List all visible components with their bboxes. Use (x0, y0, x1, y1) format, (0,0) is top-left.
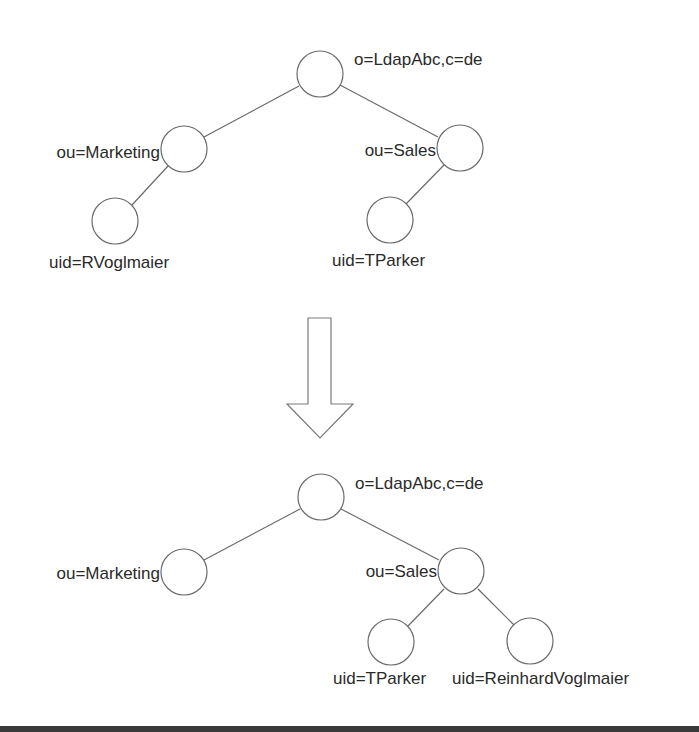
edge-root-sales (341, 509, 439, 560)
ldap-tree-diagram: o=LdapAbc,c=de ou=Marketing ou=Sales uid… (0, 0, 699, 732)
node-sales (438, 548, 484, 594)
down-arrow-icon (287, 318, 353, 438)
edge-sales-reinhardvoglmaier (478, 589, 514, 625)
label-reinhardvoglmaier: uid=ReinhardVoglmaier (452, 669, 630, 688)
node-root (297, 51, 343, 97)
tree-after: o=LdapAbc,c=de ou=Marketing ou=Sales uid… (57, 474, 630, 688)
label-tparker: uid=TParker (333, 669, 426, 688)
node-root (298, 474, 344, 520)
label-rvoglmaier: uid=RVoglmaier (49, 253, 170, 272)
bottom-border (0, 726, 699, 732)
node-marketing (161, 126, 207, 172)
node-marketing (161, 549, 207, 595)
node-tparker (367, 197, 413, 243)
label-sales: ou=Sales (365, 141, 436, 160)
node-rvoglmaier (92, 198, 138, 244)
edge-root-marketing (204, 509, 300, 560)
tree-before: o=LdapAbc,c=de ou=Marketing ou=Sales uid… (49, 50, 483, 272)
node-tparker (368, 619, 414, 665)
label-marketing: ou=Marketing (57, 564, 160, 583)
edge-sales-tparker (406, 165, 444, 204)
label-sales: ou=Sales (366, 562, 437, 581)
edge-sales-tparker (408, 589, 444, 626)
label-tparker: uid=TParker (332, 251, 425, 270)
edge-marketing-rvoglmaier (132, 166, 168, 205)
edge-root-marketing (204, 86, 299, 137)
node-reinhardvoglmaier (507, 618, 553, 664)
node-sales (437, 125, 483, 171)
label-root: o=LdapAbc,c=de (354, 50, 483, 69)
edge-root-sales (340, 85, 438, 137)
label-marketing: ou=Marketing (57, 143, 160, 162)
label-root: o=LdapAbc,c=de (355, 474, 484, 493)
